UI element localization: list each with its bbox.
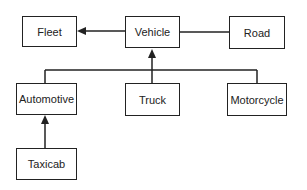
node-taxicab: Taxicab xyxy=(16,148,77,180)
arrowhead-icon xyxy=(148,49,156,58)
node-label: Vehicle xyxy=(135,26,170,38)
node-road: Road xyxy=(229,16,285,49)
arrowhead-icon xyxy=(41,115,49,124)
node-vehicle: Vehicle xyxy=(125,16,180,48)
node-motorcycle: Motorcycle xyxy=(227,83,287,116)
node-label: Fleet xyxy=(37,26,61,38)
node-automotive: Automotive xyxy=(16,83,77,115)
node-fleet: Fleet xyxy=(22,16,77,47)
node-label: Road xyxy=(244,27,270,39)
node-truck: Truck xyxy=(125,83,180,116)
arrowhead-icon xyxy=(77,27,86,35)
node-label: Truck xyxy=(139,94,166,106)
node-label: Taxicab xyxy=(28,158,65,170)
node-label: Automotive xyxy=(19,93,74,105)
node-label: Motorcycle xyxy=(230,94,283,106)
